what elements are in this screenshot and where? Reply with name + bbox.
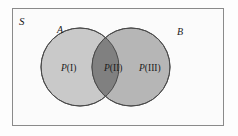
region-label-left-only: P(I) <box>61 64 76 74</box>
venn-diagram-figure: S A B P(I) P(II) P(III) <box>0 0 238 136</box>
universal-set-label: S <box>19 16 25 27</box>
region-label-intersection: P(II) <box>104 64 122 74</box>
region-label-left-only-roman: (I) <box>67 63 77 73</box>
region-label-right-only: P(III) <box>139 64 161 74</box>
set-a-label: A <box>57 25 63 35</box>
region-label-right-only-roman: (III) <box>145 63 161 73</box>
region-label-intersection-roman: (II) <box>110 63 123 73</box>
set-b-label: B <box>177 27 183 37</box>
